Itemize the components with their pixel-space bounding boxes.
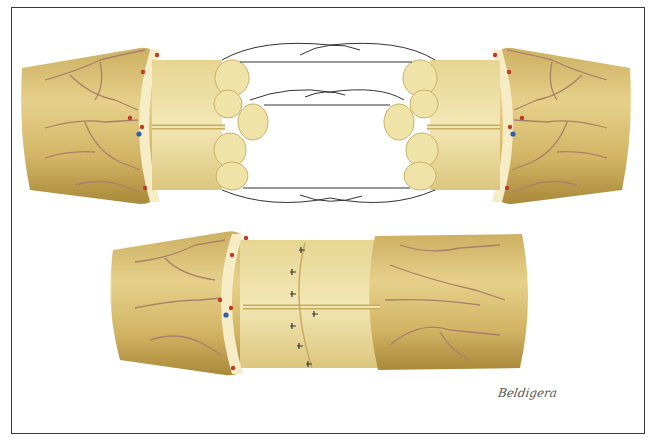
artery-dot-icon xyxy=(143,186,147,190)
artery-dot-icon xyxy=(141,70,145,74)
artery-dot-icon xyxy=(140,125,144,129)
vein-dot-icon xyxy=(136,131,141,136)
artist-signature: Beldigera xyxy=(497,386,558,400)
left-nerve-stump xyxy=(18,48,268,208)
artery-dot-icon xyxy=(128,116,132,120)
artery-dot-icon xyxy=(155,53,159,57)
nerve-repair-illustration xyxy=(0,0,652,445)
right-nerve-stump xyxy=(384,48,634,208)
repaired-nerve xyxy=(108,231,528,375)
